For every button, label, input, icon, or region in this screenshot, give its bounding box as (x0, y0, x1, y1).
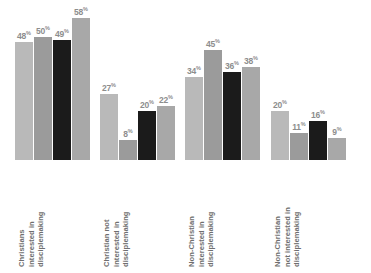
percent-sign: % (337, 126, 342, 132)
bar[interactable] (242, 67, 260, 160)
bar[interactable] (34, 37, 52, 160)
bar-group: 27%8%20%22% (100, 1, 175, 160)
bar-value-number: 38 (244, 56, 253, 66)
category-label-line: disciplemaking (121, 211, 131, 267)
category-label: Christiansinterested indisciplemaking (17, 163, 73, 271)
category-label-line: interested in (27, 211, 37, 267)
bar[interactable] (138, 111, 156, 160)
grouped-bar-chart: 48%50%49%58%27%8%20%22%34%45%36%38%20%11… (0, 0, 371, 273)
bar[interactable] (72, 18, 90, 160)
bar[interactable] (185, 77, 203, 160)
bar[interactable] (157, 106, 175, 160)
bar-value-label: 27% (102, 83, 116, 92)
bar-group: 34%45%36%38% (185, 1, 260, 160)
bar-value-label: 20% (140, 100, 154, 109)
bar[interactable] (53, 40, 71, 160)
category-label-line: Christian not (102, 211, 112, 267)
bar-slot: 16% (309, 1, 327, 160)
bar-value-number: 20 (140, 100, 149, 110)
bar-value-number: 22 (159, 95, 168, 105)
bar-slot: 11% (290, 1, 308, 160)
bar-value-label: 34% (187, 66, 201, 75)
bar-value-number: 48 (17, 31, 26, 41)
bar-slot: 9% (328, 1, 346, 160)
bar-value-number: 27 (102, 83, 111, 93)
bar-slot: 22% (157, 1, 175, 160)
bar-value-number: 45 (206, 39, 215, 49)
bar-value-number: 36 (225, 61, 234, 71)
percent-sign: % (45, 25, 50, 31)
percent-sign: % (320, 109, 325, 115)
category-label: Non-Christianinterested indisciplemaking (187, 163, 243, 271)
bar-slot: 36% (223, 1, 241, 160)
bar-slot: 50% (34, 1, 52, 160)
percent-sign: % (253, 55, 258, 61)
percent-sign: % (83, 6, 88, 12)
bar-value-label: 8% (123, 129, 132, 138)
percent-sign: % (111, 82, 116, 88)
category-label-line: interested in (197, 211, 207, 267)
category-label-line: interested in (112, 211, 122, 267)
bar-value-label: 11% (292, 122, 305, 131)
category-label: Christian notinterested indisciplemaking (102, 163, 158, 271)
bar-value-label: 50% (36, 26, 50, 35)
bar-value-number: 50 (36, 26, 45, 36)
percent-sign: % (64, 28, 69, 34)
bar-value-label: 45% (206, 39, 220, 48)
category-label-line: Christians (17, 211, 27, 267)
bar-slot: 8% (119, 1, 137, 160)
bar-group: 20%11%16%9% (271, 1, 346, 160)
bar-value-label: 49% (55, 29, 69, 38)
category-label-line: Non-Christian (273, 207, 283, 267)
category-label-line: disciplemaking (36, 211, 46, 267)
category-axis: Christiansinterested indisciplemakingChr… (0, 163, 371, 273)
bar-value-label: 22% (159, 95, 173, 104)
plot-area: 48%50%49%58%27%8%20%22%34%45%36%38%20%11… (0, 0, 371, 160)
bar-slot: 20% (138, 1, 156, 160)
category-label-line: disciplemaking (292, 207, 302, 267)
percent-sign: % (301, 121, 306, 127)
bar-slot: 45% (204, 1, 222, 160)
category-label-line: not interested in (283, 207, 293, 267)
category-label: Non-Christiannot interested indisciplema… (273, 163, 333, 271)
bar[interactable] (328, 138, 346, 160)
bar[interactable] (290, 133, 308, 160)
bar-value-number: 11 (292, 122, 301, 132)
bar-value-label: 16% (311, 110, 325, 119)
category-label-line: Non-Christian (187, 211, 197, 267)
bar-value-number: 49 (55, 29, 64, 39)
bar-value-label: 58% (74, 7, 88, 16)
bar-value-label: 9% (332, 127, 341, 136)
bar-value-number: 16 (311, 110, 320, 120)
bar-group: 48%50%49%58% (15, 1, 90, 160)
bar-value-label: 48% (17, 31, 31, 40)
bar-slot: 58% (72, 1, 90, 160)
percent-sign: % (128, 128, 133, 134)
percent-sign: % (234, 60, 239, 66)
bar[interactable] (309, 121, 327, 160)
bar-value-number: 58 (74, 7, 83, 17)
percent-sign: % (168, 94, 173, 100)
bar-slot: 48% (15, 1, 33, 160)
percent-sign: % (282, 99, 287, 105)
percent-sign: % (26, 30, 31, 36)
bar-value-number: 34 (187, 66, 196, 76)
percent-sign: % (149, 99, 154, 105)
bar[interactable] (223, 72, 241, 160)
bar-slot: 34% (185, 1, 203, 160)
bar-slot: 38% (242, 1, 260, 160)
bar[interactable] (271, 111, 289, 160)
percent-sign: % (196, 65, 201, 71)
bar-value-label: 20% (273, 100, 287, 109)
percent-sign: % (215, 38, 220, 44)
bar[interactable] (100, 94, 118, 160)
category-label-line: disciplemaking (206, 211, 216, 267)
bar-value-number: 20 (273, 100, 282, 110)
bar[interactable] (204, 50, 222, 160)
bar[interactable] (119, 140, 137, 160)
bar-slot: 49% (53, 1, 71, 160)
bar[interactable] (15, 42, 33, 160)
bar-slot: 20% (271, 1, 289, 160)
bar-value-label: 38% (244, 56, 258, 65)
bar-value-label: 36% (225, 61, 239, 70)
